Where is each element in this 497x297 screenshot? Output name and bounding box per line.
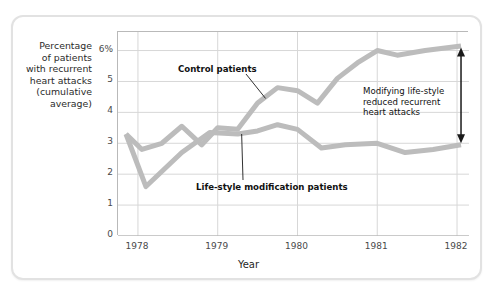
y-axis-tick-label: 5 [87, 74, 113, 84]
y-axis-title-line-1: Percentage [14, 40, 92, 52]
y-axis-title-line-2: of patients [14, 52, 92, 64]
gap-arrow-head-up [457, 47, 465, 56]
y-axis-tick-label: 6% [87, 44, 113, 54]
y-axis-title-line-4: heart attacks [14, 75, 92, 87]
plot-area [117, 31, 468, 235]
annotation-life-style-modification: Life-style modification patients [196, 182, 348, 192]
x-axis-tick-label: 1978 [115, 241, 159, 251]
annotation-control-patients: Control patients [178, 64, 257, 74]
chart-screenshot: Percentage of patients with recurrent he… [0, 0, 497, 297]
x-axis-tick-label: 1981 [354, 241, 398, 251]
y-axis-tick-label: 3 [87, 136, 113, 146]
annotation-gap-callout: Modifying life-style reduced recurrent h… [363, 86, 461, 118]
y-axis-tick-label: 0 [87, 229, 113, 239]
x-axis-title: Year [0, 259, 497, 270]
gap-arrow-head-down [457, 134, 465, 143]
y-axis-title-line-6: average) [14, 98, 92, 110]
plot-svg [118, 32, 469, 236]
leader-line-life-style [242, 134, 243, 180]
y-axis-tick-label: 1 [87, 198, 113, 208]
x-axis-tick-label: 1982 [434, 241, 478, 251]
leader-line-control-patients [246, 74, 266, 98]
x-axis-tick-label: 1980 [274, 241, 318, 251]
y-axis-title: Percentage of patients with recurrent he… [14, 40, 92, 110]
y-axis-title-line-3: with recurrent [14, 63, 92, 75]
y-axis-title-line-5: (cumulative [14, 86, 92, 98]
y-axis-tick-label: 2 [87, 167, 113, 177]
x-axis-tick-label: 1979 [195, 241, 239, 251]
y-axis-tick-label: 4 [87, 105, 113, 115]
